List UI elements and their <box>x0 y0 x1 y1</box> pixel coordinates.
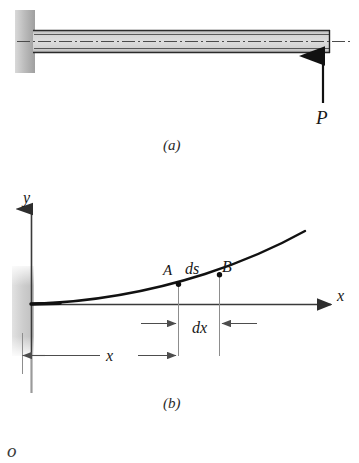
point-marker-a <box>176 282 181 287</box>
point-label-a: A <box>163 263 172 278</box>
panel-b-graphic <box>0 178 359 393</box>
caption-part-b: (b) <box>163 396 181 411</box>
point-label-b: B <box>222 259 232 275</box>
panel-b-beam-root <box>31 303 60 304</box>
figure-container: P (a) <box>0 0 359 463</box>
axis-label-x: x <box>337 288 344 304</box>
arc-length-label-ds: ds <box>185 261 199 277</box>
cropped-bottom-glyph: o <box>7 441 17 460</box>
dimension-label-dx: dx <box>192 320 207 336</box>
dimension-label-x: x <box>106 348 113 364</box>
axis-label-y: y <box>23 190 30 206</box>
caption-part-a: (a) <box>163 138 181 153</box>
load-label-p: P <box>316 108 328 127</box>
